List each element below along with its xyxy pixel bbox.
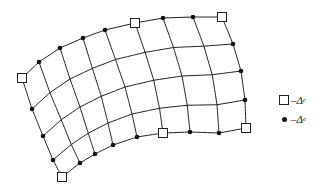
edge-node-dot — [239, 69, 244, 74]
edge-node-dot — [78, 161, 83, 166]
edge-node-dot — [30, 107, 35, 112]
edge-node-dot — [41, 134, 46, 139]
mesh-column-line — [105, 30, 137, 137]
corner-node-square — [58, 173, 67, 182]
corner-node-square — [131, 19, 140, 28]
edge-node-dot — [93, 152, 98, 157]
mesh-row-line — [43, 71, 241, 136]
mesh-column-line — [135, 23, 163, 133]
corner-node-square — [159, 129, 168, 138]
edge-node-dot — [161, 16, 166, 21]
edge-node-dot — [111, 143, 116, 148]
dot-node-icon — [282, 117, 287, 122]
edge-node-dot — [103, 28, 108, 33]
edge-node-dot — [58, 46, 63, 51]
edge-node-dot — [191, 15, 196, 20]
mesh-grid-lines — [22, 17, 246, 177]
legend-subscript: c — [303, 96, 306, 104]
edge-node-dot — [37, 60, 42, 65]
edge-node-dot — [243, 98, 248, 103]
square-node-icon — [279, 95, 289, 105]
mesh-column-line — [60, 48, 95, 154]
mesh-column-line — [163, 18, 190, 132]
mesh-row-line — [53, 100, 245, 160]
edge-node-dot — [51, 158, 56, 163]
edge-node-dot — [217, 131, 222, 136]
left-edge — [22, 78, 62, 177]
corner-node-square — [18, 74, 27, 83]
edge-node-dot — [231, 42, 236, 47]
corner-node-square — [218, 13, 227, 22]
legend-item-dot: – Δe — [279, 113, 306, 125]
corner-node-square — [242, 124, 251, 133]
edge-node-dot — [135, 135, 140, 140]
mesh-column-line — [83, 38, 113, 145]
top-edge — [22, 17, 222, 78]
edge-node-dot — [188, 130, 193, 135]
legend-subscript: e — [303, 115, 306, 123]
legend-item-square: – Δc — [279, 94, 306, 106]
bottom-edge — [62, 128, 246, 177]
edge-node-dot — [81, 36, 86, 41]
